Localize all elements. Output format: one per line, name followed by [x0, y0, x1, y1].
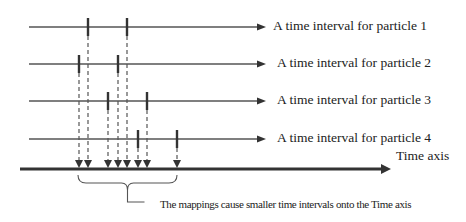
- arrow-right-icon: [257, 61, 266, 68]
- arrowhead-down-icon: [114, 160, 122, 168]
- arrowhead-down-icon: [134, 160, 142, 168]
- time-axis-arrow-icon: [381, 164, 391, 174]
- arrowhead-down-icon: [173, 160, 181, 168]
- arrowhead-down-icon: [104, 160, 112, 168]
- arrow-right-icon: [257, 136, 266, 143]
- brace-caption: The mappings cause smaller time interval…: [160, 198, 411, 210]
- arrowhead-down-icon: [143, 160, 151, 168]
- arrow-right-icon: [257, 24, 266, 31]
- arrowhead-down-icon: [84, 160, 92, 168]
- arrow-right-icon: [257, 98, 266, 105]
- arrowhead-down-icon: [123, 160, 131, 168]
- particle-time-interval-diagram: A time interval for particle 1 A time in…: [0, 0, 466, 222]
- row-label-particle-2: A time interval for particle 2: [277, 55, 431, 71]
- brace-leader-line: [128, 190, 145, 202]
- arrowhead-down-icon: [75, 160, 83, 168]
- row-label-particle-3: A time interval for particle 3: [277, 92, 431, 108]
- time-axis-label: Time axis: [396, 148, 449, 164]
- curly-brace: [78, 175, 177, 190]
- row-label-particle-1: A time interval for particle 1: [273, 18, 427, 34]
- row-label-particle-4: A time interval for particle 4: [277, 130, 431, 146]
